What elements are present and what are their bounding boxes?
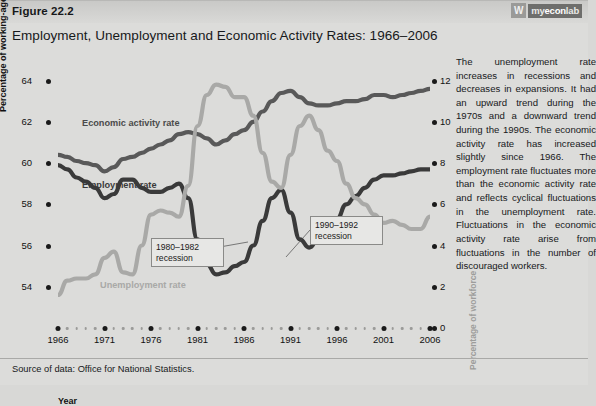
series-label-economic-activity: Economic activity rate (82, 118, 180, 129)
x-tick-label: 1986 (233, 334, 254, 345)
logo-prefix: my (531, 5, 544, 16)
y-tick-dot-left (46, 244, 51, 249)
x-tick-label: 1981 (187, 334, 208, 345)
annotation-line-2: recession (315, 231, 378, 242)
chart-area: Percentage of working-age population Per… (0, 52, 452, 347)
y-tick-dot-right (432, 285, 437, 290)
series-label-unemployment: Unemployment rate (100, 280, 186, 291)
x-axis-label: Year (58, 396, 77, 406)
y-tick-label-left: 64 (8, 75, 32, 86)
annotation-line-2: recession (156, 253, 219, 264)
y-tick-label-left: 58 (8, 198, 32, 209)
myeconlab-logo[interactable]: W myeconlab (511, 3, 582, 18)
x-tick-label: 1966 (47, 334, 68, 345)
header-band (0, 0, 588, 23)
page-title: Employment, Unemployment and Economic Ac… (12, 28, 438, 43)
series-label-text: Unemployment rate (100, 280, 186, 290)
y-tick-dot-left (46, 285, 51, 290)
y-tick-label-right: 2 (440, 281, 464, 292)
figure-number: Figure 22.2 (12, 5, 74, 17)
annotation-1990-1992-recession: 1990–1992 recession (310, 216, 383, 245)
y-tick-label-left: 62 (8, 116, 32, 127)
y-tick-dot-right (432, 79, 437, 84)
y-tick-dot-left (46, 79, 51, 84)
series-label-employment: Employment rate (82, 180, 157, 191)
x-tick-label: 1971 (94, 334, 115, 345)
y-tick-dot-right (432, 161, 437, 166)
side-commentary-text: The unemployment rate increases in reces… (456, 55, 596, 273)
x-tick-label: 2001 (373, 334, 394, 345)
myeconlab-wordmark: myeconlab (528, 4, 582, 18)
series-line-economic-activity-rate (58, 89, 430, 171)
annotation-line-1: 1990–1992 (315, 220, 378, 231)
side-commentary: The unemployment rate increases in reces… (456, 55, 596, 273)
logo-suffix: lab (566, 5, 579, 16)
y-tick-dot-left (46, 202, 51, 207)
source-note: Source of data: Office for National Stat… (12, 364, 194, 374)
series-label-text: Economic activity rate (82, 118, 180, 128)
y-tick-dot-right (432, 244, 437, 249)
annotation-1980-1982-recession: 1980–1982 recession (151, 238, 224, 267)
logo-mid: econ (544, 5, 565, 16)
y-axis-label-left: Percentage of working-age population (0, 98, 8, 112)
y-tick-dot-right (432, 120, 437, 125)
annotation-line-1: 1980–1982 (156, 242, 219, 253)
y-tick-label-left: 60 (8, 157, 32, 168)
y-tick-label-right: 0 (440, 322, 464, 333)
x-tick-label: 2006 (419, 334, 440, 345)
x-tick-label: 1976 (140, 334, 161, 345)
x-tick-label: 1991 (280, 334, 301, 345)
series-label-text: Employment rate (82, 180, 157, 190)
y-tick-dot-left (46, 120, 51, 125)
y-tick-label-left: 54 (8, 281, 32, 292)
y-tick-dot-right (432, 202, 437, 207)
footer-divider (0, 358, 588, 359)
x-tick-label: 1996 (326, 334, 347, 345)
y-tick-dot-left (46, 161, 51, 166)
y-tick-label-left: 56 (8, 240, 32, 251)
myeconlab-mark-icon: W (511, 3, 526, 18)
y-tick-dot-right (432, 326, 437, 331)
